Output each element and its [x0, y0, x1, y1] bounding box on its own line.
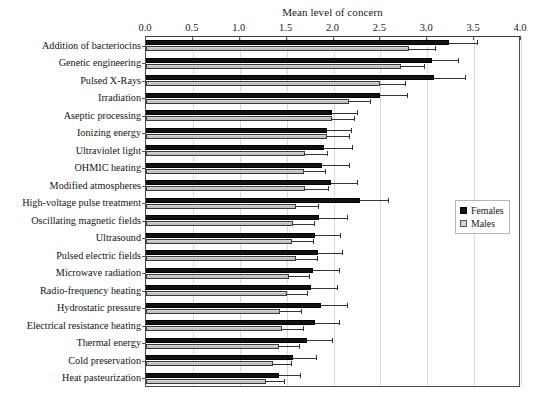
legend-label-males: Males [471, 218, 495, 229]
error-bar-females [313, 270, 339, 271]
y-category-label: OHMIC heating [0, 163, 141, 173]
chart-title: Mean level of concern [145, 6, 520, 18]
y-category-label: Addition of bacteriocins [0, 41, 141, 51]
bar-females [146, 303, 321, 308]
error-bar-females [449, 43, 477, 44]
error-bar-males [280, 311, 301, 312]
error-cap-females [339, 320, 340, 325]
error-cap-males [424, 64, 425, 69]
error-bar-females [315, 323, 339, 324]
legend-label-females: Females [471, 205, 504, 216]
error-cap-females [340, 233, 341, 238]
error-cap-males [405, 81, 406, 86]
x-tick-label: 0.5 [185, 22, 198, 33]
error-cap-females [477, 40, 478, 45]
x-tick-mark [426, 36, 427, 40]
bar-females [146, 215, 319, 220]
error-bar-males [327, 136, 350, 137]
x-tick-label: 1.0 [232, 22, 245, 33]
gridline [427, 37, 428, 386]
bar-females [146, 355, 293, 360]
x-tick-label: 2.0 [326, 22, 339, 33]
bar-males [146, 221, 293, 226]
error-cap-males [307, 291, 308, 296]
error-cap-males [318, 204, 319, 209]
y-category-label: Ultraviolet light [0, 146, 141, 156]
error-bar-females [318, 253, 342, 254]
bar-females [146, 198, 360, 203]
error-bar-females [327, 130, 351, 131]
error-cap-females [300, 373, 301, 378]
error-bar-females [315, 235, 340, 236]
error-cap-males [301, 309, 302, 314]
error-bar-males [266, 381, 284, 382]
x-tick-mark [239, 36, 240, 40]
error-bar-females [324, 148, 352, 149]
error-cap-males [314, 221, 315, 226]
x-tick-mark [286, 36, 287, 40]
error-cap-males [291, 361, 292, 366]
y-category-label: Oscillating magnetic fields [0, 216, 141, 226]
error-cap-females [351, 128, 352, 133]
error-bar-males [287, 294, 308, 295]
error-bar-females [279, 375, 300, 376]
error-bar-males [401, 66, 424, 67]
error-cap-females [357, 110, 358, 115]
error-cap-females [347, 303, 348, 308]
bar-females [146, 40, 449, 45]
bar-females [146, 180, 331, 185]
error-cap-females [349, 163, 350, 168]
y-category-label: Thermal energy [0, 338, 141, 348]
bar-males [146, 64, 401, 69]
error-bar-females [322, 165, 348, 166]
chart-legend: Females Males [455, 200, 510, 234]
x-tick-mark [145, 36, 146, 40]
error-bar-males [349, 101, 371, 102]
legend-item-females: Females [460, 204, 504, 217]
error-bar-males [305, 189, 328, 190]
error-bar-males [293, 224, 314, 225]
y-category-label: Microwave radiation [0, 268, 141, 278]
bar-males [146, 361, 273, 366]
error-cap-males [325, 169, 326, 174]
chart-figure: Mean level of concern 0.00.51.01.52.02.5… [0, 0, 533, 405]
bar-males [146, 291, 287, 296]
error-bar-males [282, 329, 303, 330]
error-cap-females [407, 93, 408, 98]
error-cap-males [349, 134, 350, 139]
error-cap-males [284, 379, 285, 384]
error-cap-males [370, 99, 371, 104]
y-category-label: Hydrostatic pressure [0, 303, 141, 313]
error-bar-males [289, 276, 310, 277]
gridline [380, 37, 381, 386]
error-bar-males [305, 154, 327, 155]
error-bar-males [279, 346, 299, 347]
error-cap-females [388, 198, 389, 203]
x-tick-label: 4.0 [513, 22, 526, 33]
error-cap-males [327, 151, 328, 156]
error-bar-males [296, 259, 317, 260]
x-tick-mark [520, 36, 521, 40]
gridline [521, 37, 522, 386]
bar-males [146, 379, 266, 384]
bar-males [146, 326, 282, 331]
bar-males [146, 99, 349, 104]
error-bar-males [332, 119, 355, 120]
error-bar-males [304, 171, 326, 172]
error-cap-males [309, 274, 310, 279]
bar-females [146, 320, 315, 325]
x-tick-label: 3.0 [420, 22, 433, 33]
y-category-label: Pulsed X-Rays [0, 76, 141, 86]
bar-females [146, 58, 432, 63]
y-category-label: Modified atmospheres [0, 181, 141, 191]
y-category-label: Aseptic processing [0, 111, 141, 121]
error-bar-females [319, 218, 346, 219]
error-cap-males [303, 326, 304, 331]
bar-females [146, 250, 318, 255]
bar-males [146, 116, 332, 121]
y-category-label: Ionizing energy [0, 128, 141, 138]
bar-females [146, 163, 322, 168]
error-bar-females [321, 305, 346, 306]
error-bar-females [311, 288, 337, 289]
y-category-label: Cold preservation [0, 356, 141, 366]
